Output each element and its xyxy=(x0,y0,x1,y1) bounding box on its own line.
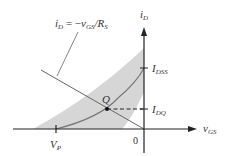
origin-label: 0 xyxy=(133,135,138,146)
transfer-characteristic-band xyxy=(33,48,144,129)
x-axis-label: vGS xyxy=(203,122,217,136)
x-axis-arrow-icon xyxy=(188,126,197,132)
q-point-label: Q xyxy=(102,93,110,105)
jfet-bias-diagram: iD = −vGS/RS iD vGS 0 IDSS IDQ VP Q xyxy=(0,0,231,156)
idq-label: IDQ xyxy=(151,103,166,117)
y-axis-arrow-icon xyxy=(141,27,147,36)
q-point xyxy=(105,107,109,111)
load-line-equation-label: iD = −vGS/RS xyxy=(55,17,108,31)
equation-leader-line xyxy=(57,32,78,76)
y-axis-label: iD xyxy=(140,8,148,22)
idss-label: IDSS xyxy=(151,62,168,76)
vp-label: VP xyxy=(50,138,62,152)
